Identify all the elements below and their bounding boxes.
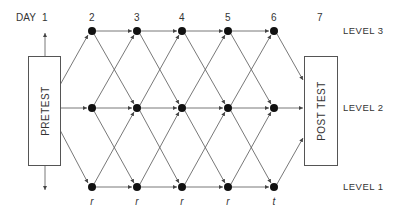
node-label-day6: t bbox=[273, 196, 276, 207]
day-label-3: 3 bbox=[134, 12, 140, 23]
pretest-box: PRETEST bbox=[28, 56, 61, 166]
day-label-7: 7 bbox=[317, 12, 323, 23]
posttest-label: POST TEST bbox=[316, 81, 327, 141]
node-label-day3: r bbox=[135, 196, 138, 207]
day-label-2: 2 bbox=[89, 12, 95, 23]
nodes bbox=[88, 27, 278, 191]
node-label-day2: r bbox=[90, 196, 93, 207]
level-1-label: LEVEL 1 bbox=[343, 181, 384, 192]
day-prefix-label: DAY bbox=[16, 12, 36, 23]
level-3-label: LEVEL 3 bbox=[343, 25, 384, 36]
day-label-1: 1 bbox=[42, 12, 48, 23]
node-label-day5: r bbox=[226, 196, 229, 207]
node-label-day4: r bbox=[180, 196, 183, 207]
day-label-6: 6 bbox=[271, 12, 277, 23]
day-label-5: 5 bbox=[225, 12, 231, 23]
level-2-label: LEVEL 2 bbox=[343, 102, 384, 113]
posttest-box: POST TEST bbox=[304, 56, 338, 166]
pretest-label: PRETEST bbox=[39, 86, 50, 136]
day-label-4: 4 bbox=[179, 12, 185, 23]
